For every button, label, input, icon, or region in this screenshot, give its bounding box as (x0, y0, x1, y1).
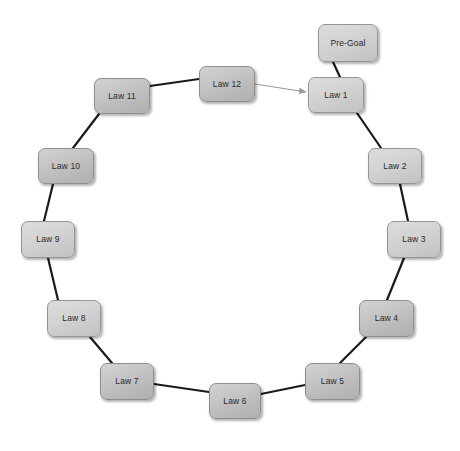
node-law-11[interactable]: Law 11 (94, 78, 150, 114)
edge-law-1-to-law-2 (357, 113, 381, 148)
node-law-4[interactable]: Law 4 (359, 300, 414, 337)
edge-law-6-to-law-7 (154, 384, 209, 392)
node-law-12[interactable]: Law 12 (199, 66, 255, 102)
edge-law-10-to-law-11 (73, 114, 99, 148)
edge-pre-goal-to-law-1 (333, 62, 340, 77)
node-label: Law 10 (52, 162, 80, 171)
node-label: Pre-Goal (330, 39, 365, 48)
node-label: Law 1 (324, 91, 347, 100)
node-law-1[interactable]: Law 1 (308, 77, 364, 113)
edge-law-3-to-law-4 (387, 258, 404, 300)
edge-law-5-to-law-6 (261, 385, 305, 394)
node-label: Law 9 (36, 235, 59, 244)
node-label: Law 7 (115, 377, 138, 386)
node-label: Law 12 (213, 80, 241, 89)
edge-law-8-to-law-9 (48, 258, 58, 300)
node-law-7[interactable]: Law 7 (100, 363, 154, 400)
edge-law-2-to-law-3 (400, 184, 408, 221)
node-law-3[interactable]: Law 3 (387, 221, 441, 258)
node-law-9[interactable]: Law 9 (21, 221, 75, 258)
node-law-10[interactable]: Law 10 (38, 148, 94, 184)
node-label: Law 8 (62, 314, 85, 323)
node-law-5[interactable]: Law 5 (305, 363, 360, 400)
node-label: Law 11 (108, 92, 136, 101)
node-label: Law 6 (223, 397, 246, 406)
edge-law-7-to-law-8 (90, 337, 112, 363)
node-label: Law 4 (375, 314, 398, 323)
node-law-8[interactable]: Law 8 (47, 300, 101, 337)
edge-law-12-to-law-1 (255, 84, 306, 92)
edge-law-9-to-law-10 (44, 184, 53, 221)
node-label: Law 5 (321, 377, 344, 386)
node-label: Law 2 (383, 162, 406, 171)
node-label: Law 3 (402, 235, 425, 244)
diagram-canvas: Pre-GoalLaw 1Law 2Law 3Law 4Law 5Law 6La… (0, 0, 460, 451)
edge-law-11-to-law-12 (150, 79, 199, 86)
edge-law-4-to-law-5 (340, 337, 366, 363)
node-pre-goal[interactable]: Pre-Goal (318, 24, 378, 62)
node-law-6[interactable]: Law 6 (209, 383, 261, 419)
node-law-2[interactable]: Law 2 (368, 148, 422, 184)
